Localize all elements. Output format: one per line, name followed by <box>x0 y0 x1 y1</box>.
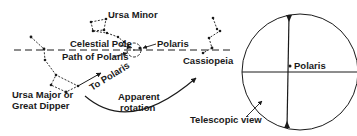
polaris-arrow-left <box>143 44 156 48</box>
cassiopeia-label: Cassiopeia <box>183 55 234 66</box>
polaris-label-left: Polaris <box>157 38 189 49</box>
telescopic-view <box>242 14 357 130</box>
polaris-star-right <box>289 65 292 68</box>
ursa-major-label-line2: Great Dipper <box>12 100 70 111</box>
polaris-star-left <box>138 46 141 49</box>
celestial-pole-point <box>133 49 135 51</box>
cassiopeia-stars <box>202 17 222 55</box>
polaris-label-right: Polaris <box>294 60 326 71</box>
polaris-diagram: Ursa Minor Celestial Pole Path of Polari… <box>0 0 357 136</box>
apparent-rotation-label-line1: Apparent <box>118 91 161 102</box>
apparent-rotation-label-line2: rotation <box>120 102 156 113</box>
celestial-pole-label: Celestial Pole <box>70 38 132 49</box>
telescopic-view-label: Telescopic view <box>190 114 262 125</box>
top-arrow-head-icon <box>286 15 292 22</box>
to-polaris-label: To Polaris <box>87 59 131 92</box>
ursa-major-label-line1: Ursa Major or <box>12 89 74 100</box>
ursa-minor-label: Ursa Minor <box>108 9 158 20</box>
bottom-arrow-head-icon <box>284 121 290 128</box>
path-of-polaris-label: Path of Polaris <box>62 51 129 62</box>
